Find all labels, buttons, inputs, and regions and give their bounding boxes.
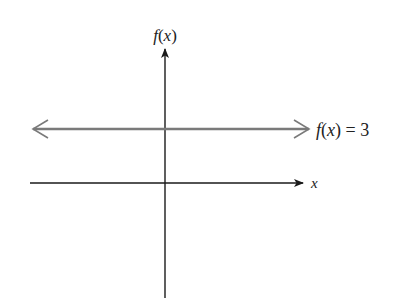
x-axis-label: x [310, 175, 318, 191]
function-label: f(x) = 3 [316, 120, 369, 141]
y-axis-label: f(x) [153, 26, 177, 45]
function-line-f-equals-3 [33, 120, 309, 138]
coordinate-plane: f(x) x f(x) = 3 [0, 0, 411, 302]
